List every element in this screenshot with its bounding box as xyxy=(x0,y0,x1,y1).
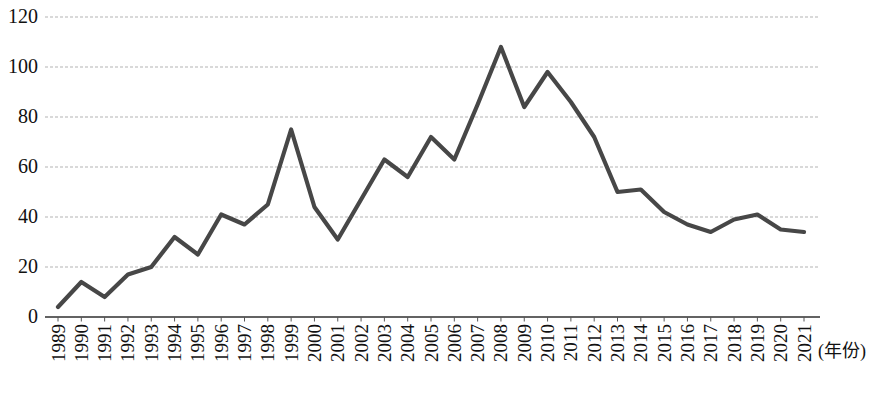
x-axis-tick-label: 1991 xyxy=(94,324,115,362)
x-axis-tick-label: 1997 xyxy=(234,324,255,362)
x-axis-tick-label: 2020 xyxy=(770,324,791,362)
x-axis-tick-label: 2017 xyxy=(700,324,721,362)
x-axis-tick-label: 2003 xyxy=(374,324,395,362)
x-axis-tick-label: 1993 xyxy=(141,324,162,362)
x-axis-tick-label: 1996 xyxy=(211,324,232,362)
x-axis-tick-label: 2019 xyxy=(747,324,768,362)
x-axis-tick-label: 2009 xyxy=(514,324,535,362)
x-axis-tick-label: 2007 xyxy=(467,324,488,362)
x-axis-tick-label: 2001 xyxy=(327,324,348,362)
y-axis-tick-label: 120 xyxy=(8,5,38,27)
x-axis-tick-label: 2015 xyxy=(654,324,675,362)
x-axis-tick-label: 1992 xyxy=(117,324,138,362)
x-axis-tick-label: 2016 xyxy=(677,324,698,362)
x-axis-tick-label: 2011 xyxy=(560,324,581,361)
x-axis-tick-label: 2014 xyxy=(630,324,651,363)
x-axis-tick-label: 1999 xyxy=(281,324,302,362)
y-axis-tick-label: 0 xyxy=(28,305,38,327)
x-axis-tick-label: 1998 xyxy=(257,324,278,362)
x-axis-tick-label: 2008 xyxy=(490,324,511,362)
x-axis-tick-label: 2021 xyxy=(794,324,815,362)
chart-figure: 0204060801001201989199019911992199319941… xyxy=(0,0,887,404)
x-axis-unit-label: (年份) xyxy=(818,336,866,362)
line-chart: 0204060801001201989199019911992199319941… xyxy=(0,0,887,404)
x-axis-tick-label: 2002 xyxy=(351,324,372,362)
x-axis-tick-label: 1990 xyxy=(71,324,92,362)
x-axis-tick-label: 2018 xyxy=(724,324,745,362)
x-axis-tick-label: 1995 xyxy=(187,324,208,362)
x-axis-tick-label: 2013 xyxy=(607,324,628,362)
data-series-line xyxy=(58,47,804,307)
y-axis-tick-label: 80 xyxy=(18,105,38,127)
y-axis-tick-label: 100 xyxy=(8,55,38,77)
x-axis-tick-label: 2010 xyxy=(537,324,558,362)
x-axis-tick-label: 1994 xyxy=(164,324,185,363)
y-axis-tick-label: 20 xyxy=(18,255,38,277)
x-axis-tick-label: 2012 xyxy=(584,324,605,362)
x-axis-tick-label: 1989 xyxy=(48,324,69,362)
x-axis-tick-label: 2006 xyxy=(444,324,465,362)
x-axis-tick-label: 2000 xyxy=(304,324,325,362)
y-axis-tick-label: 60 xyxy=(18,155,38,177)
x-axis-tick-label: 2005 xyxy=(421,324,442,362)
y-axis-tick-label: 40 xyxy=(18,205,38,227)
x-axis-tick-label: 2004 xyxy=(397,324,418,363)
